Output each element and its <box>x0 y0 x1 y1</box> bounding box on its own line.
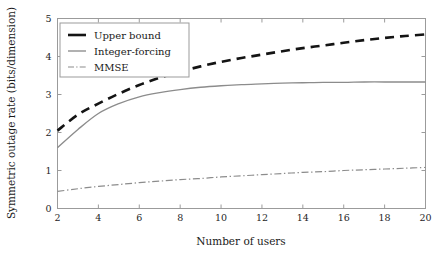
x-tick-label: 12 <box>256 212 268 223</box>
y-tick-label: 0 <box>45 203 51 214</box>
figure-container: 2468101214161820 012345 Number of users … <box>0 0 448 253</box>
x-tick-label: 8 <box>177 212 183 223</box>
y-axis-tick-labels: 012345 <box>45 13 51 214</box>
x-tick-label: 4 <box>95 212 101 223</box>
legend-label-mmse: MMSE <box>94 62 129 73</box>
x-axis-tick-labels: 2468101214161820 <box>54 212 431 223</box>
legend-label-upper-bound: Upper bound <box>94 30 161 41</box>
x-tick-label: 16 <box>338 212 350 223</box>
x-tick-label: 20 <box>419 212 431 223</box>
series-line-mmse <box>58 167 426 191</box>
y-tick-label: 2 <box>45 127 51 138</box>
series-line-integer-forcing <box>58 82 426 148</box>
x-tick-label: 6 <box>136 212 142 223</box>
line-chart: 2468101214161820 012345 Number of users … <box>0 0 448 253</box>
y-tick-label: 5 <box>45 13 51 24</box>
x-axis-title: Number of users <box>196 235 286 247</box>
legend-label-integer-forcing: Integer-forcing <box>94 46 172 57</box>
y-tick-label: 1 <box>45 165 51 176</box>
chart-legend: Upper bound Integer-forcing MMSE <box>60 23 189 77</box>
x-tick-label: 14 <box>297 212 309 223</box>
x-tick-label: 18 <box>379 212 391 223</box>
x-tick-label: 2 <box>54 212 60 223</box>
x-tick-label: 10 <box>215 212 227 223</box>
y-tick-label: 4 <box>45 51 51 62</box>
y-axis-title: Symmetric outage rate (bits/dimension) <box>5 7 17 219</box>
y-tick-label: 3 <box>45 89 51 100</box>
